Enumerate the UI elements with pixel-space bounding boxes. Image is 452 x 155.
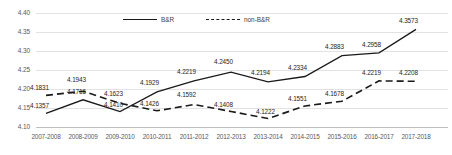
data-label-br: 4.2194 <box>251 69 270 76</box>
series-line-non-br <box>46 81 416 119</box>
data-label-non-br: 4.1222 <box>256 108 275 115</box>
data-label-br: 4.1929 <box>140 79 159 86</box>
data-label-br: 4.1716 <box>67 88 86 95</box>
data-label-br: 4.2219 <box>177 68 196 75</box>
data-label-non-br: 4.1426 <box>140 100 159 107</box>
data-label-br: 4.1357 <box>30 102 49 109</box>
legend-dashed-line-icon <box>206 19 240 20</box>
data-label-non-br: 4.1943 <box>67 76 86 83</box>
data-label-non-br: 4.1623 <box>104 90 123 97</box>
legend-solid-line-icon <box>123 19 157 20</box>
data-label-br: 4.3573 <box>399 17 418 24</box>
data-label-non-br: 4.1678 <box>325 90 344 97</box>
legend-label-br: B&R <box>161 16 174 23</box>
data-label-non-br: 4.2219 <box>362 69 381 76</box>
data-label-br: 4.2450 <box>214 58 233 65</box>
data-label-non-br: 4.1551 <box>288 95 307 102</box>
x-tick-label: 2017-2018 <box>386 133 446 140</box>
data-label-non-br: 4.2208 <box>399 69 418 76</box>
data-label-non-br: 4.1831 <box>30 84 49 91</box>
data-label-br: 4.2958 <box>362 41 381 48</box>
data-label-br: 4.2334 <box>288 64 307 71</box>
data-label-non-br: 4.1592 <box>177 91 196 98</box>
data-label-br: 4.1410 <box>104 101 123 108</box>
data-label-br: 4.2883 <box>325 43 344 50</box>
legend-label-non-br: non-B&R <box>244 16 270 23</box>
legend-item-br: B&R <box>123 16 174 23</box>
data-label-non-br: 4.1408 <box>214 101 233 108</box>
line-chart: 4.40 4.35 4.30 4.25 4.20 4.15 4.10 B&R n… <box>0 0 452 155</box>
legend-item-non-br: non-B&R <box>206 16 270 23</box>
